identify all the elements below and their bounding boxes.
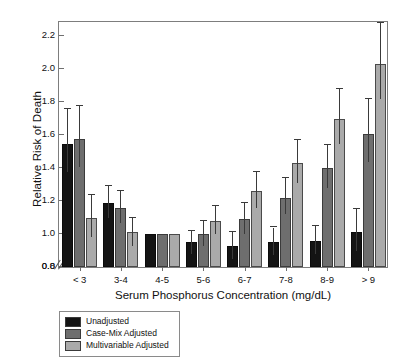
error-bar bbox=[297, 140, 298, 183]
error-bar-cap bbox=[188, 230, 195, 231]
bar-group bbox=[186, 22, 221, 267]
error-bar-cap bbox=[282, 177, 289, 178]
y-axis-title: Relative Risk of Death bbox=[31, 59, 43, 239]
error-bar bbox=[108, 186, 109, 217]
x-tick-label: > 9 bbox=[348, 274, 388, 285]
legend-swatch-icon bbox=[65, 329, 81, 339]
bar bbox=[145, 234, 156, 267]
x-tick-label: 6-7 bbox=[225, 274, 265, 285]
error-bar bbox=[327, 145, 328, 188]
x-tick bbox=[80, 267, 81, 271]
error-bar-cap bbox=[253, 171, 260, 172]
x-tick bbox=[368, 267, 369, 271]
error-bar-cap bbox=[117, 190, 124, 191]
error-bar-cap bbox=[212, 205, 219, 206]
x-tick bbox=[245, 267, 246, 271]
y-tick-label: 1.6 bbox=[42, 128, 55, 139]
x-tick bbox=[286, 267, 287, 271]
error-bar bbox=[203, 221, 204, 246]
error-bar-cap bbox=[270, 226, 277, 227]
legend-label: Unadjusted bbox=[86, 317, 129, 326]
error-bar bbox=[232, 232, 233, 258]
error-bar bbox=[120, 191, 121, 222]
x-tick bbox=[121, 267, 122, 271]
x-tick bbox=[327, 267, 328, 271]
error-bar-cap bbox=[200, 220, 207, 221]
error-bar-cap bbox=[129, 217, 136, 218]
error-bar bbox=[339, 89, 340, 143]
error-bar-cap bbox=[324, 144, 331, 145]
error-bar-cap bbox=[312, 225, 319, 226]
error-bar bbox=[191, 231, 192, 254]
error-bar bbox=[315, 226, 316, 254]
legend-item: Multivariable Adjusted bbox=[65, 340, 169, 351]
error-bar bbox=[356, 209, 357, 250]
bar-group bbox=[103, 22, 138, 267]
error-bar bbox=[132, 218, 133, 246]
x-tick bbox=[162, 267, 163, 271]
legend-item: Unadjusted bbox=[65, 316, 169, 327]
y-tick-label: 2.0 bbox=[42, 62, 55, 73]
error-bar bbox=[368, 99, 369, 162]
bar-group bbox=[351, 22, 386, 267]
x-tick bbox=[203, 267, 204, 271]
chart-legend: UnadjustedCase-Mix AdjustedMultivariable… bbox=[59, 311, 180, 357]
y-tick-label: 1.4 bbox=[42, 161, 55, 172]
y-tick-label: 2.2 bbox=[42, 29, 55, 40]
error-bar-cap bbox=[377, 22, 384, 23]
error-bar-cap bbox=[353, 208, 360, 209]
error-bar bbox=[285, 178, 286, 214]
bar-group bbox=[227, 22, 262, 267]
bar-group bbox=[310, 22, 345, 267]
error-bar bbox=[256, 172, 257, 208]
bar-groups bbox=[59, 22, 387, 267]
x-tick-label: 8-9 bbox=[307, 274, 347, 285]
bar-group bbox=[62, 22, 97, 267]
y-tick-label: 1.0 bbox=[42, 227, 55, 238]
legend-swatch-icon bbox=[65, 317, 81, 327]
legend-label: Multivariable Adjusted bbox=[86, 341, 169, 350]
x-tick-label: 7-8 bbox=[266, 274, 306, 285]
bar bbox=[169, 234, 180, 267]
y-tick-label: 1.8 bbox=[42, 95, 55, 106]
error-bar bbox=[67, 109, 68, 172]
legend-swatch-icon bbox=[65, 341, 81, 351]
x-tick-label: 4-5 bbox=[142, 274, 182, 285]
error-bar bbox=[244, 203, 245, 234]
x-axis-title: Serum Phosphorus Concentration (mg/dL) bbox=[58, 289, 388, 301]
error-bar bbox=[215, 206, 216, 234]
bar-group bbox=[268, 22, 303, 267]
error-bar-cap bbox=[365, 98, 372, 99]
legend-item: Case-Mix Adjusted bbox=[65, 328, 169, 339]
error-bar-cap bbox=[229, 231, 236, 232]
error-bar-cap bbox=[76, 105, 83, 106]
error-bar bbox=[380, 23, 381, 99]
legend-label: Case-Mix Adjusted bbox=[86, 329, 157, 338]
bar-group bbox=[145, 22, 180, 267]
plot-area: 0.81.01.21.41.61.82.02.20.0 < 33-44-55-6… bbox=[58, 21, 388, 268]
error-bar bbox=[273, 228, 274, 256]
x-tick-label: 3-4 bbox=[101, 274, 141, 285]
x-tick-label: 5-6 bbox=[183, 274, 223, 285]
error-bar-cap bbox=[241, 202, 248, 203]
error-bar-cap bbox=[64, 108, 71, 109]
error-bar-cap bbox=[294, 139, 301, 140]
x-tick-label: < 3 bbox=[60, 274, 100, 285]
error-bar bbox=[91, 195, 92, 238]
y-tick-label: 1.2 bbox=[42, 194, 55, 205]
error-bar bbox=[79, 106, 80, 167]
error-bar-cap bbox=[105, 185, 112, 186]
error-bar-cap bbox=[88, 194, 95, 195]
bar bbox=[157, 234, 168, 267]
error-bar-cap bbox=[336, 88, 343, 89]
